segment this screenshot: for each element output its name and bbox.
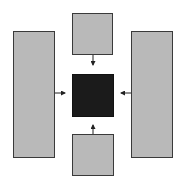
arrows-layer	[0, 0, 185, 185]
